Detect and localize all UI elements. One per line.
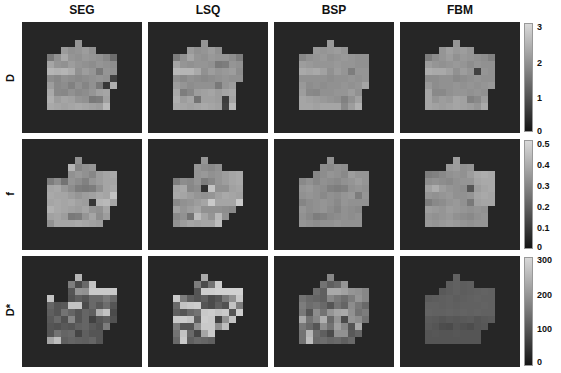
heatmap-cell: [453, 54, 460, 61]
heatmap-cell: [320, 220, 327, 227]
heatmap-cell: [474, 40, 481, 47]
heatmap-cell: [488, 213, 495, 220]
heatmap-cell: [68, 330, 75, 337]
heatmap-cell: [488, 47, 495, 54]
heatmap-cell: [369, 323, 376, 330]
heatmap-cell: [348, 288, 355, 295]
heatmap-cell: [194, 103, 201, 110]
heatmap-cell: [446, 82, 453, 89]
heatmap-cell: [369, 164, 376, 171]
pixel-grid: [40, 157, 124, 234]
heatmap-cell: [173, 54, 180, 61]
heatmap-cell: [481, 103, 488, 110]
heatmap-cell: [215, 220, 222, 227]
heatmap-cell: [110, 40, 117, 47]
heatmap-cell: [460, 323, 467, 330]
heatmap-cell: [173, 75, 180, 82]
heatmap-cell: [439, 227, 446, 234]
heatmap-cell: [348, 96, 355, 103]
heatmap-cell: [166, 199, 173, 206]
heatmap-cell: [47, 302, 54, 309]
heatmap-cell: [61, 213, 68, 220]
heatmap-cell: [313, 206, 320, 213]
heatmap-cell: [488, 54, 495, 61]
heatmap-cell: [89, 295, 96, 302]
heatmap-cell: [474, 323, 481, 330]
heatmap-cell: [82, 89, 89, 96]
heatmap-cell: [61, 295, 68, 302]
heatmap-cell: [236, 344, 243, 351]
heatmap-cell: [418, 344, 425, 351]
heatmap-cell: [341, 47, 348, 54]
heatmap-cell: [439, 75, 446, 82]
heatmap-cell: [488, 75, 495, 82]
heatmap-cell: [432, 199, 439, 206]
heatmap-cell: [425, 288, 432, 295]
colorbar-f-tick: 0.2: [537, 203, 550, 212]
heatmap-cell: [173, 178, 180, 185]
heatmap-cell: [495, 96, 502, 103]
heatmap-cell: [327, 199, 334, 206]
heatmap-cell: [362, 227, 369, 234]
heatmap-cell: [47, 337, 54, 344]
heatmap-cell: [292, 302, 299, 309]
heatmap-cell: [432, 47, 439, 54]
heatmap-cell: [103, 274, 110, 281]
heatmap-cell: [96, 199, 103, 206]
heatmap-cell: [117, 178, 124, 185]
heatmap-cell: [82, 171, 89, 178]
heatmap-cell: [40, 295, 47, 302]
heatmap-cell: [201, 281, 208, 288]
heatmap-cell: [187, 96, 194, 103]
heatmap-cell: [61, 302, 68, 309]
heatmap-cell: [96, 227, 103, 234]
heatmap-cell: [236, 281, 243, 288]
heatmap-panel-dstar-lsq: [148, 256, 268, 367]
colorbar-dstar: [524, 257, 533, 366]
heatmap-cell: [460, 164, 467, 171]
heatmap-cell: [166, 89, 173, 96]
heatmap-cell: [348, 82, 355, 89]
heatmap-cell: [201, 164, 208, 171]
heatmap-cell: [327, 40, 334, 47]
heatmap-cell: [355, 337, 362, 344]
heatmap-cell: [166, 164, 173, 171]
heatmap-cell: [369, 302, 376, 309]
heatmap-cell: [47, 281, 54, 288]
heatmap-cell: [166, 302, 173, 309]
heatmap-cell: [481, 68, 488, 75]
heatmap-cell: [313, 61, 320, 68]
heatmap-cell: [460, 61, 467, 68]
heatmap-cell: [299, 295, 306, 302]
heatmap-cell: [89, 206, 96, 213]
heatmap-cell: [425, 54, 432, 61]
heatmap-cell: [180, 206, 187, 213]
heatmap-cell: [96, 295, 103, 302]
heatmap-cell: [243, 206, 250, 213]
heatmap-cell: [89, 316, 96, 323]
heatmap-cell: [54, 337, 61, 344]
heatmap-cell: [446, 96, 453, 103]
heatmap-cell: [460, 281, 467, 288]
heatmap-cell: [173, 206, 180, 213]
heatmap-cell: [495, 40, 502, 47]
heatmap-cell: [187, 164, 194, 171]
heatmap-cell: [355, 75, 362, 82]
heatmap-cell: [453, 281, 460, 288]
heatmap-cell: [166, 82, 173, 89]
heatmap-cell: [75, 103, 82, 110]
heatmap-cell: [187, 295, 194, 302]
heatmap-cell: [467, 157, 474, 164]
heatmap-cell: [439, 220, 446, 227]
heatmap-cell: [474, 61, 481, 68]
heatmap-cell: [68, 274, 75, 281]
heatmap-cell: [40, 164, 47, 171]
heatmap-cell: [348, 192, 355, 199]
heatmap-cell: [488, 323, 495, 330]
heatmap-cell: [481, 274, 488, 281]
heatmap-cell: [40, 344, 47, 351]
heatmap-cell: [334, 185, 341, 192]
heatmap-cell: [299, 178, 306, 185]
heatmap-cell: [418, 295, 425, 302]
heatmap-cell: [229, 89, 236, 96]
